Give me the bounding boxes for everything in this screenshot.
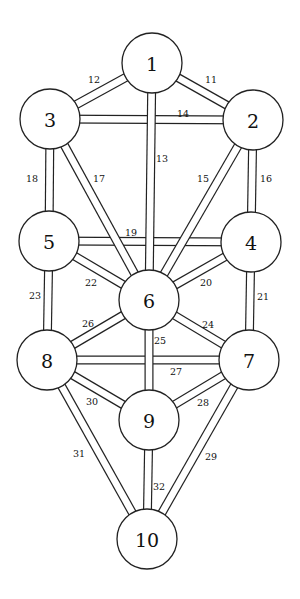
node-label: 1 bbox=[146, 53, 158, 75]
sephirah-3: 3 bbox=[20, 89, 80, 149]
path-label: 16 bbox=[260, 173, 272, 184]
path-label: 17 bbox=[93, 173, 105, 184]
path-label: 14 bbox=[177, 108, 189, 119]
node-label: 4 bbox=[245, 232, 257, 254]
path-label: 11 bbox=[205, 74, 217, 85]
sephirah-1: 1 bbox=[122, 33, 182, 93]
path-label: 30 bbox=[86, 396, 98, 407]
tree-of-life-diagram: 1419271211181623211715222026243028312913… bbox=[0, 0, 300, 599]
node-label: 5 bbox=[43, 231, 55, 253]
node-label: 6 bbox=[143, 290, 155, 312]
sephirah-10: 10 bbox=[117, 509, 177, 569]
node-label: 3 bbox=[44, 109, 56, 131]
path-label: 22 bbox=[85, 277, 97, 288]
path-label: 21 bbox=[257, 291, 269, 302]
sephirah-7: 7 bbox=[219, 330, 279, 390]
path-13 bbox=[149, 63, 152, 300]
path-label: 26 bbox=[82, 318, 94, 329]
sephirah-6: 6 bbox=[119, 270, 179, 330]
path-label: 15 bbox=[197, 173, 209, 184]
path-label: 27 bbox=[170, 366, 182, 377]
path-label: 24 bbox=[202, 319, 214, 330]
path-label: 20 bbox=[200, 277, 212, 288]
sephirah-5: 5 bbox=[19, 211, 79, 271]
path-label: 32 bbox=[153, 481, 165, 492]
path-fill bbox=[149, 63, 152, 300]
path-label: 13 bbox=[156, 153, 168, 164]
path-label: 12 bbox=[88, 74, 100, 85]
sephirah-8: 8 bbox=[17, 330, 77, 390]
path-label: 25 bbox=[154, 335, 166, 346]
path-label: 18 bbox=[26, 173, 38, 184]
path-label: 19 bbox=[125, 227, 137, 238]
node-label: 8 bbox=[41, 350, 53, 372]
node-label: 7 bbox=[243, 350, 255, 372]
path-label: 29 bbox=[205, 451, 217, 462]
path-label: 23 bbox=[29, 290, 41, 301]
sephirah-2: 2 bbox=[223, 90, 283, 150]
node-label: 10 bbox=[135, 529, 159, 551]
sephirah-9: 9 bbox=[119, 390, 179, 450]
node-label: 2 bbox=[247, 110, 259, 132]
path-label: 28 bbox=[197, 397, 209, 408]
path-label: 31 bbox=[73, 448, 85, 459]
sephirah-4: 4 bbox=[221, 212, 281, 272]
node-label: 9 bbox=[143, 410, 155, 432]
